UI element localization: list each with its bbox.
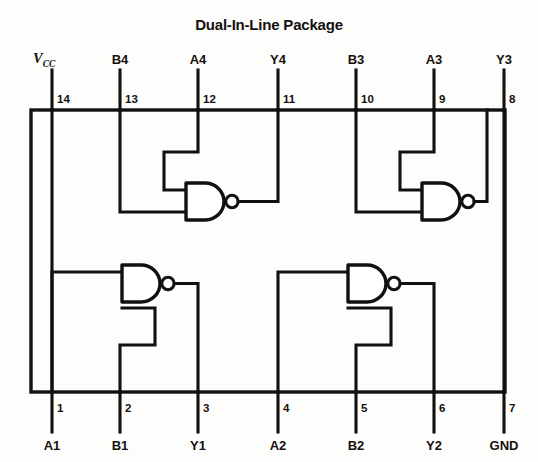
vcc-base: V [33, 50, 43, 66]
pin-number-3: 3 [203, 402, 209, 414]
wire-b1-to-gate1 [120, 308, 155, 392]
wire-gate3-to-y3 [474, 110, 487, 202]
pin-number-7: 7 [509, 402, 515, 414]
signal-label-gnd: GND [490, 438, 519, 453]
gate3-inversion-bubble [462, 195, 474, 207]
gate4-inversion-bubble [226, 195, 238, 207]
pin-number-2: 2 [125, 402, 131, 414]
gate4-nand-body [186, 183, 224, 220]
wire-gate1-to-y1 [174, 284, 198, 393]
pin-number-8: 8 [509, 93, 516, 105]
dip-pinout-diagram: Dual-In-Line Package [0, 0, 538, 462]
signal-label-b1: B1 [112, 438, 129, 453]
signal-label-b3: B3 [348, 52, 365, 67]
pin-number-13: 13 [125, 93, 138, 105]
signal-label-a2: A2 [270, 438, 287, 453]
package-schematic: 14 13 12 11 10 9 8 B4 A4 Y4 B3 A3 Y3 1 2… [0, 0, 538, 462]
bottom-pin-leads [52, 392, 504, 432]
top-pin-leads [52, 70, 504, 110]
signal-label-y1: Y1 [190, 438, 206, 453]
top-pin-numbers: 14 13 12 11 10 9 8 [57, 93, 516, 105]
signal-label-a4: A4 [190, 52, 207, 67]
pin-number-1: 1 [57, 402, 64, 414]
pin-number-11: 11 [283, 93, 296, 105]
signal-label-y2: Y2 [426, 438, 442, 453]
pin-number-4: 4 [283, 402, 290, 414]
bottom-pin-numbers: 1 2 3 4 5 6 7 [57, 402, 515, 414]
pin-number-14: 14 [57, 93, 70, 105]
pin-number-9: 9 [439, 93, 445, 105]
signal-label-b4: B4 [112, 52, 129, 67]
wire-b2-to-gate2 [348, 308, 391, 392]
vcc-subscript: CC [43, 59, 56, 69]
wire-a1-to-gate1 [52, 272, 122, 392]
pin-number-6: 6 [439, 402, 445, 414]
gate1-inversion-bubble [162, 277, 174, 289]
wire-b3-to-gate3 [356, 110, 422, 212]
wire-b4-to-gate4 [120, 110, 186, 212]
wire-a3-to-gate3 [400, 110, 434, 190]
signal-label-vcc: VCC [33, 50, 55, 69]
wire-gate4-to-y4 [238, 110, 278, 202]
gate2-nand-body [348, 265, 386, 302]
wire-a2-to-gate2 [278, 272, 348, 392]
signal-label-a1: A1 [44, 438, 61, 453]
gate1-nand-body [122, 265, 160, 302]
gate2-inversion-bubble [388, 277, 400, 289]
signal-label-y4: Y4 [270, 52, 287, 67]
gate3-nand-body [422, 183, 460, 220]
bottom-signal-labels: A1 B1 Y1 A2 B2 Y2 GND [44, 438, 519, 453]
wire-a4-to-gate4 [164, 110, 198, 190]
wire-gate2-to-y2 [400, 284, 434, 393]
signal-label-b2: B2 [348, 438, 365, 453]
pin-number-12: 12 [203, 93, 216, 105]
signal-label-y3: Y3 [496, 52, 512, 67]
pin-number-5: 5 [361, 402, 368, 414]
pin-number-10: 10 [361, 93, 374, 105]
signal-label-a3: A3 [426, 52, 443, 67]
top-signal-labels: B4 A4 Y4 B3 A3 Y3 [112, 52, 512, 67]
